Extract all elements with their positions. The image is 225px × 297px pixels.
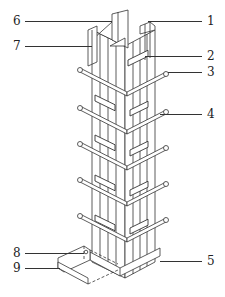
leader-line-1 xyxy=(148,21,202,22)
label-1: 1 xyxy=(207,15,215,27)
label-4: 4 xyxy=(207,108,215,120)
leader-line-5 xyxy=(160,261,202,262)
leader-line-7 xyxy=(25,46,92,47)
label-5: 5 xyxy=(207,255,215,267)
leader-line-8 xyxy=(25,253,84,254)
label-2: 2 xyxy=(207,50,215,62)
leader-line-4 xyxy=(160,114,202,115)
leader-line-6 xyxy=(25,21,112,22)
label-8: 8 xyxy=(13,247,21,259)
leader-line-2 xyxy=(145,56,202,57)
label-3: 3 xyxy=(207,66,215,78)
label-6: 6 xyxy=(13,15,21,27)
label-9: 9 xyxy=(13,262,21,274)
label-7: 7 xyxy=(13,40,21,52)
leader-line-9 xyxy=(25,268,60,269)
leader-line-3 xyxy=(168,72,202,73)
